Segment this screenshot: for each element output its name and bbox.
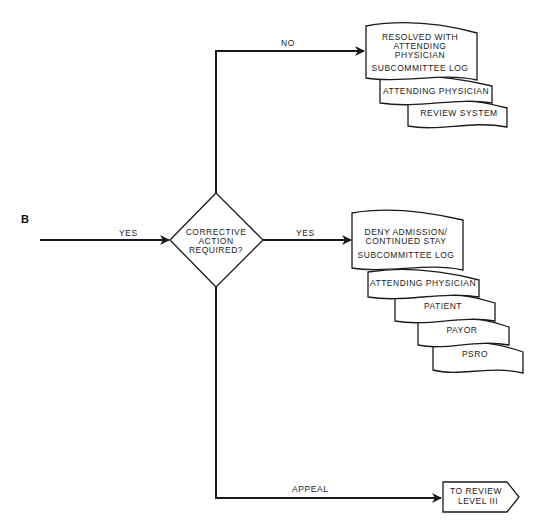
- svg-text:PHYSICIAN: PHYSICIAN: [395, 50, 445, 60]
- no-documents: REVIEW SYSTEM ATTENDING PHYSICIAN RESOLV…: [366, 23, 507, 128]
- svg-text:SUBCOMMITTEE LOG: SUBCOMMITTEE LOG: [372, 63, 469, 73]
- no-connector: NO: [216, 38, 364, 193]
- terminator-to-review-level-3: TO REVIEW LEVEL III: [443, 482, 519, 512]
- svg-text:ATTENDING PHYSICIAN: ATTENDING PHYSICIAN: [370, 278, 476, 288]
- yes-label: YES: [296, 228, 315, 238]
- yes-connector: YES: [263, 228, 351, 240]
- svg-text:REVIEW SYSTEM: REVIEW SYSTEM: [420, 108, 497, 118]
- document-resolved-with-physician: RESOLVED WITH ATTENDING PHYSICIAN SUBCOM…: [366, 23, 477, 80]
- no-label: NO: [281, 38, 295, 48]
- document-attending-physician: ATTENDING PHYSICIAN: [368, 270, 479, 299]
- svg-text:PSRO: PSRO: [462, 349, 488, 359]
- svg-text:CONTINUED STAY: CONTINUED STAY: [366, 236, 447, 246]
- document-attending-physician: ATTENDING PHYSICIAN: [380, 76, 492, 104]
- entry-connector: YES: [40, 228, 169, 240]
- svg-text:TO REVIEW: TO REVIEW: [450, 486, 502, 496]
- svg-text:PATIENT: PATIENT: [424, 301, 462, 311]
- entry-label: YES: [119, 228, 138, 238]
- svg-text:ATTENDING PHYSICIAN: ATTENDING PHYSICIAN: [383, 86, 489, 96]
- flowchart: B YES CORRECTIVE ACTION REQUIRED? NO REV…: [0, 0, 540, 527]
- appeal-label: APPEAL: [292, 484, 329, 494]
- svg-text:SUBCOMMITTEE LOG: SUBCOMMITTEE LOG: [358, 250, 455, 260]
- yes-documents: PSRO PAYOR PATIENT ATTENDING PHYSICIAN D…: [352, 210, 523, 373]
- document-deny-admission: DENY ADMISSION/ CONTINUED STAY SUBCOMMIT…: [352, 210, 463, 270]
- svg-text:LEVEL III: LEVEL III: [458, 496, 498, 506]
- section-label: B: [21, 213, 29, 225]
- decision-corrective-action: CORRECTIVE ACTION REQUIRED?: [170, 193, 263, 287]
- decision-line-3: REQUIRED?: [189, 245, 243, 255]
- svg-text:PAYOR: PAYOR: [447, 325, 478, 335]
